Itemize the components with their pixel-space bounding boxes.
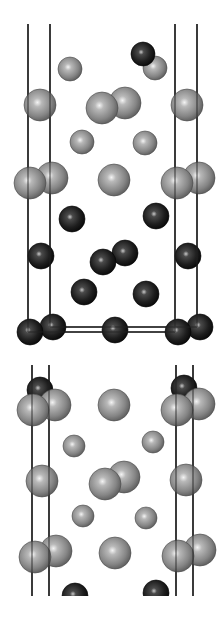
light-atom bbox=[26, 465, 58, 497]
light-atom bbox=[70, 130, 94, 154]
lower-view-panel bbox=[17, 365, 216, 609]
light-atom bbox=[89, 468, 121, 500]
light-atom bbox=[58, 57, 82, 81]
dark-atom bbox=[131, 42, 155, 66]
light-atom bbox=[72, 505, 94, 527]
dark-atom bbox=[59, 206, 85, 232]
light-atom bbox=[19, 541, 51, 573]
dark-atom bbox=[62, 583, 88, 609]
light-atom bbox=[99, 537, 131, 569]
dark-atom bbox=[90, 249, 116, 275]
atoms bbox=[14, 42, 215, 345]
crystal-structure-figure bbox=[0, 0, 224, 620]
light-atom bbox=[135, 507, 157, 529]
light-atom bbox=[142, 431, 164, 453]
light-atom bbox=[86, 92, 118, 124]
light-atom bbox=[98, 389, 130, 421]
light-atom bbox=[17, 394, 49, 426]
light-atom bbox=[161, 394, 193, 426]
light-atom bbox=[162, 540, 194, 572]
dark-atom bbox=[71, 279, 97, 305]
dark-atom bbox=[143, 203, 169, 229]
light-atom bbox=[170, 464, 202, 496]
light-atom bbox=[161, 167, 193, 199]
light-atom bbox=[14, 167, 46, 199]
light-atom bbox=[133, 131, 157, 155]
dark-atom bbox=[143, 580, 169, 606]
light-atom bbox=[98, 164, 130, 196]
atoms bbox=[17, 375, 216, 609]
upper-view-panel bbox=[14, 24, 215, 345]
dark-atom bbox=[133, 281, 159, 307]
dark-atom bbox=[102, 317, 128, 343]
light-atom bbox=[63, 435, 85, 457]
